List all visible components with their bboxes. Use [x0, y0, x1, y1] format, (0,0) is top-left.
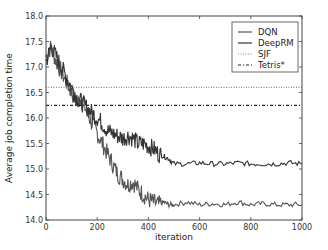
- y-tick-label: 17.5: [25, 38, 43, 47]
- y-tick-label: 16.5: [25, 89, 43, 98]
- x-tick-label: 800: [243, 223, 258, 232]
- legend: DQNDeepRMSJFTetris*: [232, 22, 298, 72]
- x-tick-label: 400: [141, 223, 156, 232]
- y-tick-label: 15.5: [25, 140, 43, 149]
- y-axis-label: Average job completion time: [4, 53, 14, 183]
- y-tick-label: 14.5: [25, 191, 43, 200]
- y-tick-label: 15.0: [25, 165, 43, 174]
- y-tick-label: 18.0: [25, 12, 43, 21]
- y-tick-label: 17.0: [25, 63, 43, 72]
- x-tick-label: 0: [43, 223, 48, 232]
- legend-label: Tetris*: [257, 60, 285, 70]
- x-axis-label: iteration: [155, 232, 193, 242]
- x-tick-label: 200: [90, 223, 105, 232]
- y-tick-label: 16.0: [25, 114, 43, 123]
- legend-label: DeepRM: [258, 38, 294, 48]
- x-tick-label: 1000: [292, 223, 312, 232]
- legend-label: DQN: [258, 27, 278, 37]
- legend-label: SJF: [258, 49, 271, 59]
- y-tick-label: 14.0: [25, 216, 43, 225]
- x-tick-label: 600: [192, 223, 207, 232]
- line-chart: 14.014.515.015.516.016.517.017.518.0 020…: [0, 0, 328, 250]
